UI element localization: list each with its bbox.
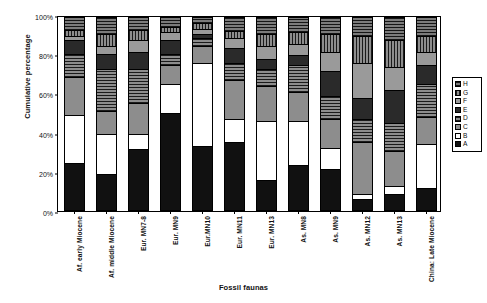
legend-item-F[interactable]: F <box>455 97 479 106</box>
x-axis-tick-label: Eur. MN13 <box>268 216 275 249</box>
bar-segment-C <box>353 143 372 195</box>
bar-segment-H <box>353 18 372 37</box>
bar-segment-D <box>65 55 84 78</box>
legend-label: E <box>463 107 467 114</box>
bar-segment-A <box>193 147 212 210</box>
y-axis-tick-mark <box>55 56 58 57</box>
bar-segment-F <box>353 64 372 99</box>
y-axis-tick-label: 0% <box>19 210 58 217</box>
x-axis-tick-label: As. MN13 <box>396 216 403 246</box>
bar-1[interactable] <box>64 17 85 211</box>
bar-7[interactable] <box>256 17 277 211</box>
x-axis-tick-label: As. MN8 <box>300 216 307 243</box>
legend-item-D[interactable]: D <box>455 114 479 123</box>
legend-swatch-D <box>455 116 461 122</box>
y-axis-tick-mark <box>55 95 58 96</box>
bar-segment-A <box>257 181 276 210</box>
x-axis-tick-mark <box>234 211 235 214</box>
bar-3[interactable] <box>128 17 149 211</box>
legend-swatch-E <box>455 107 461 113</box>
legend-item-C[interactable]: C <box>455 123 479 132</box>
bar-segment-F <box>385 68 404 91</box>
bar-segment-D <box>257 70 276 87</box>
x-axis-tick-mark <box>426 211 427 214</box>
bar-9[interactable] <box>320 17 341 211</box>
x-axis-tick-label: Eur.MN10 <box>204 216 211 247</box>
bar-segment-C <box>289 93 308 122</box>
y-axis-tick-mark <box>55 173 58 174</box>
legend-item-G[interactable]: G <box>455 89 479 98</box>
chart-figure: Cumulative percentage Fossil faunas 0%20… <box>0 0 487 303</box>
bar-segment-D <box>225 64 244 81</box>
y-axis-tick-mark <box>55 213 58 214</box>
bar-segment-G <box>321 35 340 52</box>
bar-segment-B <box>65 116 84 164</box>
bar-8[interactable] <box>288 17 309 211</box>
legend-label: D <box>463 115 468 122</box>
bar-11[interactable] <box>384 17 405 211</box>
legend-swatch-C <box>455 124 461 130</box>
bar-12[interactable] <box>416 17 437 211</box>
x-axis-tick-mark <box>138 211 139 214</box>
bar-segment-H <box>161 18 180 28</box>
bar-segment-E <box>417 66 436 85</box>
bar-segment-B <box>97 135 116 175</box>
bar-segment-A <box>321 170 340 210</box>
bar-segment-H <box>129 18 148 31</box>
legend-item-E[interactable]: E <box>455 106 479 115</box>
x-axis-tick-mark <box>266 211 267 214</box>
bar-segment-F <box>321 53 340 72</box>
bar-segment-D <box>385 124 404 153</box>
bar-2[interactable] <box>96 17 117 211</box>
x-axis-title: Fossil faunas <box>0 283 487 292</box>
legend-swatch-F <box>455 98 461 104</box>
bar-segment-A <box>417 189 436 210</box>
bar-segment-A <box>65 164 84 210</box>
bar-segment-E <box>353 99 372 120</box>
x-axis-tick-label: Af. middle Miocene <box>108 216 115 278</box>
legend-item-A[interactable]: A <box>455 140 479 149</box>
bar-segment-B <box>385 187 404 195</box>
bar-segment-E <box>225 49 244 64</box>
bar-segment-F <box>289 45 308 57</box>
bar-segment-G <box>289 33 308 45</box>
legend-item-B[interactable]: B <box>455 132 479 141</box>
bar-segment-D <box>417 85 436 118</box>
x-axis-tick-label: Eur. MN11 <box>236 216 243 248</box>
legend-swatch-H <box>455 81 461 87</box>
bar-segment-B <box>225 120 244 143</box>
bar-segment-G <box>385 41 404 68</box>
bar-4[interactable] <box>160 17 181 211</box>
bar-segment-D <box>161 55 180 67</box>
y-axis-tick-mark <box>55 134 58 135</box>
x-axis-tick-label: Eur. MN7-8 <box>140 216 147 251</box>
bar-segment-F <box>257 47 276 60</box>
bar-6[interactable] <box>224 17 245 211</box>
x-axis-tick-mark <box>106 211 107 214</box>
bar-segment-C <box>97 112 116 135</box>
bar-segment-B <box>193 64 212 147</box>
bar-segment-C <box>129 104 148 135</box>
y-axis-tick-label: 80% <box>19 53 58 60</box>
bar-segment-A <box>353 200 372 210</box>
bar-segment-C <box>225 81 244 119</box>
bar-segment-A <box>97 175 116 210</box>
bar-segment-C <box>193 47 212 64</box>
x-axis-tick-label: As. MN9 <box>332 216 339 243</box>
bar-segment-F <box>161 33 180 41</box>
bar-segment-B <box>289 122 308 166</box>
x-axis-tick-mark <box>362 211 363 214</box>
x-axis-tick-mark <box>298 211 299 214</box>
bar-5[interactable] <box>192 17 213 211</box>
bar-segment-D <box>289 66 308 93</box>
x-axis-tick-mark <box>202 211 203 214</box>
bar-segment-B <box>321 149 340 170</box>
bar-segment-E <box>65 41 84 54</box>
bar-segment-F <box>225 39 244 49</box>
y-axis-tick-label: 20% <box>19 170 58 177</box>
bar-10[interactable] <box>352 17 373 211</box>
x-axis-tick-label: Eur. MN9 <box>172 216 179 245</box>
legend-swatch-B <box>455 133 461 139</box>
legend-item-H[interactable]: H <box>455 80 479 89</box>
bar-segment-B <box>257 122 276 182</box>
